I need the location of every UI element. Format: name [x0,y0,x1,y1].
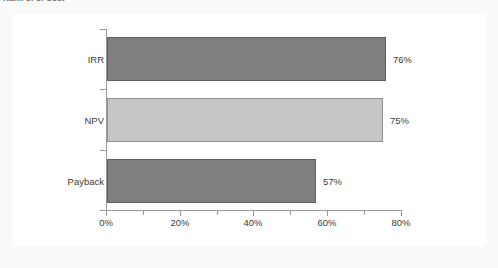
x-axis-tick-major [180,210,181,216]
bar-value-label-payback: 57% [323,176,342,187]
figure-caption: Rank of 5: Cost [3,0,65,1]
chart-panel: 76% 75% 57% IRR NPV Payback 0% 20% 40% 6… [12,14,486,246]
x-axis-label-80: 80% [391,217,410,228]
bar-value-label-npv: 75% [390,115,409,126]
x-axis-label-0: 0% [99,217,113,228]
category-label-payback: Payback [68,176,104,187]
x-axis-label-40: 40% [243,217,262,228]
y-axis-tick [100,89,106,90]
bar-irr[interactable] [107,37,386,81]
x-axis-tick-major [401,210,402,216]
bar-value-label-irr: 76% [393,54,412,65]
y-axis-tick [100,150,106,151]
x-axis-tick-minor [290,210,291,215]
bar-payback[interactable] [107,159,316,203]
x-axis-label-20: 20% [170,217,189,228]
x-axis-tick-minor [143,210,144,215]
x-axis-tick-minor [217,210,218,215]
bar-chart: 76% 75% 57% IRR NPV Payback 0% 20% 40% 6… [12,14,486,246]
bar-npv[interactable] [107,98,383,142]
y-axis-tick [100,29,106,30]
x-axis-tick-major [106,210,107,216]
x-axis-label-60: 60% [317,217,336,228]
x-axis-tick-major [253,210,254,216]
category-label-npv: NPV [84,115,104,126]
x-axis-tick-major [327,210,328,216]
category-label-irr: IRR [88,54,104,65]
x-axis-tick-minor [364,210,365,215]
